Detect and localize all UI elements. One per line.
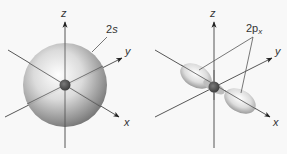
nucleus: [209, 82, 220, 93]
z-axis-label: z: [209, 7, 216, 19]
orbital-label-2s: 2s: [106, 23, 118, 35]
panel-2s: z y x 2s: [5, 7, 132, 148]
2s-leader-line: [92, 37, 107, 52]
orbital-figure: z y x 2s z y x: [0, 0, 287, 154]
orbital-diagram-svg: z y x 2s z y x: [0, 0, 287, 154]
orbital-label-2px: 2px: [246, 22, 263, 36]
y-axis-label: y: [274, 45, 282, 57]
x-axis-label: x: [123, 116, 130, 128]
2px-leader-line-front: [241, 37, 253, 93]
2px-lobe-front: [220, 83, 260, 119]
nucleus: [60, 80, 71, 91]
y-axis-label: y: [124, 45, 132, 57]
2px-leader-line-back: [199, 37, 253, 70]
panel-2px: z y x 2px: [155, 7, 282, 148]
x-axis-label: x: [272, 116, 279, 128]
z-axis-label: z: [60, 7, 67, 19]
